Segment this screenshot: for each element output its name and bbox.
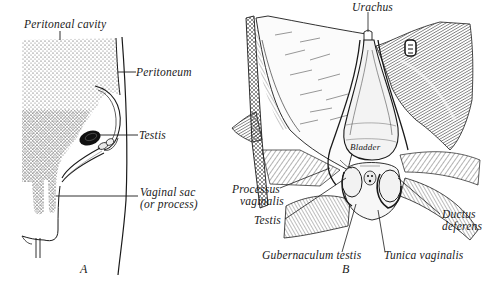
label-tunica-vaginalis: Tunica vaginalis <box>384 249 464 261</box>
panel-b-drawing <box>0 0 499 287</box>
label-processus-vaginalis-line2: vaginalis <box>240 195 284 207</box>
label-ductus-deferens-line1: Ductus <box>442 208 476 220</box>
label-testis-b: Testis <box>254 214 281 226</box>
label-gubernaculum-testis: Gubernaculum testis <box>262 249 361 261</box>
panel-letter-b: B <box>342 262 349 277</box>
anatomy-figure: Peritoneal cavity Peritoneum Testis Vagi… <box>0 0 499 287</box>
label-processus-vaginalis-line1: Processus <box>232 183 280 195</box>
label-bladder: Bladder <box>350 141 380 153</box>
label-ductus-deferens-line2: deferens <box>442 220 482 232</box>
label-urachus: Urachus <box>352 1 393 13</box>
